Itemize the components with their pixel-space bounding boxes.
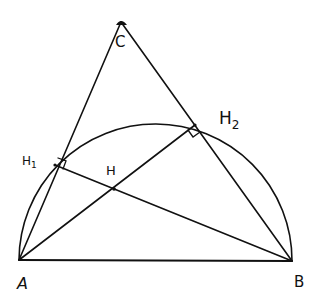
vertex-c-mark xyxy=(116,21,127,25)
label-h1: H1 xyxy=(22,154,37,170)
label-b: B xyxy=(294,273,304,291)
side-ab xyxy=(19,260,292,261)
side-bc xyxy=(121,22,292,261)
label-h2: H2 xyxy=(219,108,239,132)
point-h xyxy=(112,187,116,191)
side-ac xyxy=(19,22,121,260)
semicircle-arc xyxy=(19,124,292,261)
altitude-b-h1 xyxy=(55,165,292,261)
label-a: A xyxy=(16,274,28,293)
point-h2 xyxy=(193,123,196,126)
label-h: H xyxy=(106,163,116,178)
label-c: C xyxy=(115,33,125,51)
point-h1 xyxy=(53,163,56,166)
geometry-diagram: C A B H H1 H2 xyxy=(0,0,320,307)
altitude-a-h2 xyxy=(19,125,195,260)
